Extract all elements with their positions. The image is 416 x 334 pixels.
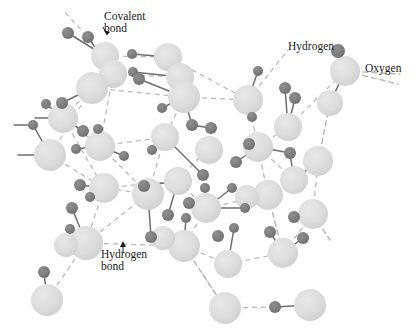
hydrogen-atom — [85, 192, 95, 202]
hydrogen-atom — [62, 27, 74, 39]
oxygen-atom — [34, 139, 66, 171]
oxygen-atom — [303, 146, 333, 176]
hydrogen-atom — [230, 156, 242, 168]
hydrogen-atom — [181, 213, 191, 223]
oxygen-atom — [294, 289, 326, 321]
hydrogen-atom — [77, 125, 89, 137]
hydrogen-atom — [200, 183, 210, 193]
oxygen-atom — [274, 113, 302, 141]
oxygen-atom — [76, 72, 108, 104]
hydrogen-atom — [186, 119, 198, 131]
hydrogen-atom — [38, 266, 50, 278]
hydrogen-atom — [289, 92, 301, 104]
hydrogen-atom — [28, 120, 38, 130]
hydrogen-atom — [205, 122, 217, 134]
oxygen-atom — [214, 250, 242, 278]
hydrogen-atom — [288, 211, 300, 223]
oxygen-atom-callout — [330, 56, 360, 86]
hydrogen-atom — [284, 147, 296, 159]
hydrogen-atom — [74, 179, 86, 191]
hydrogen-atom — [247, 112, 257, 122]
ice-lattice-figure: Covalent bond Hydrogen Oxygen Hydrogen b… — [0, 0, 416, 334]
hydrogen-atom — [133, 73, 145, 85]
hydrogen-bond-label-line2: bond — [101, 260, 124, 272]
hydrogen-atom — [138, 180, 150, 192]
hydrogen-atom — [162, 209, 174, 221]
hydrogen-atom — [279, 82, 291, 94]
oxygen-atom — [317, 90, 343, 116]
hydrogen-atom — [93, 124, 103, 134]
lattice-svg: Covalent bond Hydrogen Oxygen Hydrogen b… — [0, 0, 416, 334]
hydrogen-atom — [227, 183, 237, 193]
hydrogen-atom — [66, 202, 78, 214]
hydrogen-atom — [229, 223, 239, 233]
hydrogen-atom — [297, 232, 309, 244]
oxygen-atom — [298, 199, 328, 229]
oxygen-atom — [195, 136, 223, 164]
oxygen-label: Oxygen — [365, 62, 402, 75]
oxygen-atom — [280, 166, 308, 194]
hydrogen-atom — [147, 145, 157, 155]
hydrogen-atom — [197, 169, 209, 181]
hydrogen-atom — [240, 203, 250, 213]
oxygen-atom — [268, 238, 298, 268]
hydrogen-label: Hydrogen — [288, 40, 334, 53]
covalent-bond-label-line2: bond — [104, 22, 127, 34]
oxygen-atom — [85, 131, 115, 161]
hydrogen-atom — [157, 103, 167, 113]
hydrogen-atom — [127, 49, 137, 59]
hydrogen-atom — [145, 231, 157, 243]
oxygen-atom — [233, 85, 263, 115]
covalent-bond-label-line1: Covalent — [104, 10, 146, 22]
oxygen-atom — [168, 81, 200, 113]
oxygen-atom — [164, 167, 192, 195]
hydrogen-atom — [82, 31, 94, 43]
hydrogen-atom — [56, 97, 68, 109]
hydrogen-atom — [119, 151, 129, 161]
hydrogen-atom — [243, 138, 255, 150]
oxygen-atom — [54, 233, 78, 257]
oxygen-atom — [191, 193, 221, 223]
hydrogen-atom — [253, 66, 263, 76]
hydrogen-atom — [183, 197, 195, 209]
oxygen-atom — [209, 292, 241, 324]
hydrogen-atom — [212, 230, 224, 242]
hydrogen-atom — [264, 226, 276, 238]
hydrogen-atom — [41, 99, 51, 109]
hydrogen-atom — [65, 224, 75, 234]
hydrogen-atom — [71, 144, 81, 154]
hydrogen-atom — [269, 301, 281, 313]
oxygen-atom — [31, 284, 63, 316]
